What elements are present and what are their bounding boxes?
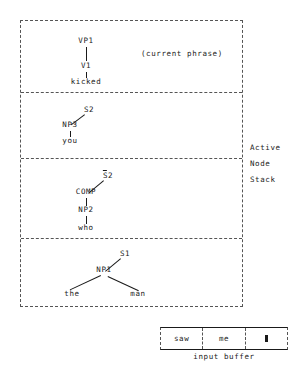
tree-node-sbar2-index: 2 [108, 171, 113, 180]
input-buffer: saw me [160, 327, 288, 350]
stack-panel-s1: S1 NP1 the man [21, 239, 242, 308]
tree-leaf-man: man [130, 289, 145, 298]
tree-node-comp: COMP [76, 187, 96, 196]
tree-leaf-the: the [64, 289, 79, 298]
tree-node-s1: S1 [120, 249, 130, 258]
stack-panel-sbar2: S2 COMP NP2 who [21, 159, 242, 239]
tree-leaf-kicked: kicked [71, 77, 102, 86]
stack-panel-s2: S2 NP3 you [21, 93, 242, 159]
buffer-cell-me-text: me [219, 334, 229, 343]
caption-line-node: Node [250, 156, 281, 172]
tree-node-vp1: VP1 [78, 36, 93, 45]
tree-node-np3: NP3 [62, 120, 77, 129]
end-of-input-marker-icon [265, 335, 268, 342]
tree-node-s2: S2 [84, 105, 94, 114]
buffer-cell-saw: saw [161, 328, 202, 349]
diagram-root: VP1 V1 kicked (current phrase) S2 NP3 yo… [0, 0, 301, 379]
caption-line-active: Active [250, 140, 281, 156]
active-node-stack-caption: Active Node Stack [250, 140, 281, 188]
buffer-cell-saw-text: saw [174, 334, 189, 343]
input-buffer-label: input buffer [160, 352, 288, 361]
tree-node-v1: V1 [81, 61, 91, 70]
tree-node-np2: NP2 [78, 205, 93, 214]
buffer-cell-end-marker [245, 328, 287, 349]
tree-leaf-you: you [62, 136, 77, 145]
tree-node-sbar2-base: S [103, 171, 108, 180]
annotation-current-phrase: (current phrase) [141, 49, 223, 58]
buffer-cell-me: me [202, 328, 244, 349]
tree-node-sbar2: S2 [103, 171, 113, 180]
tree-leaf-who: who [78, 223, 93, 232]
tree-node-np1: NP1 [96, 265, 111, 274]
input-buffer-container: saw me input buffer [160, 327, 288, 361]
active-node-stack: VP1 V1 kicked (current phrase) S2 NP3 yo… [20, 20, 243, 307]
edge-vp1-v1 [86, 47, 87, 61]
stack-panel-current-phrase: VP1 V1 kicked (current phrase) [21, 21, 242, 93]
caption-line-stack: Stack [250, 172, 281, 188]
